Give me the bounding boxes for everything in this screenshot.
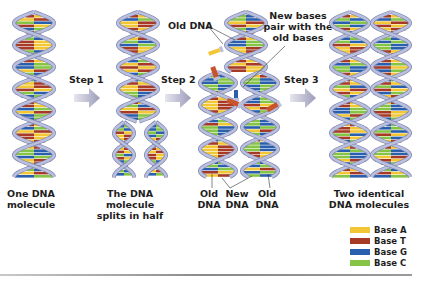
step-3-arrow-icon: [290, 88, 316, 108]
caption-line: The DNA molecule: [82, 188, 178, 210]
step-2-arrow-icon: [165, 88, 191, 108]
legend-label: Base C: [374, 258, 406, 268]
dna-helix-original: [10, 12, 60, 178]
caption-line: One DNA: [4, 188, 58, 199]
caption-line: molecule: [4, 199, 58, 210]
step-3-label: Step 3: [284, 74, 319, 85]
new-bases-annotation: New bases pair with the old bases: [262, 10, 334, 43]
caption-line: splits in half: [82, 210, 178, 221]
legend-label: Base G: [374, 247, 407, 257]
caption-line: DNA: [223, 199, 251, 210]
caption-leader-lines: [200, 172, 280, 192]
legend-item-base-t: Base T: [350, 236, 407, 246]
swatch-base-t: [350, 238, 370, 244]
dna-helix-identical-2: [371, 12, 411, 178]
legend-item-base-a: Base A: [350, 225, 407, 235]
caption-one-dna-molecule: One DNA molecule: [4, 188, 58, 210]
new-bases-line-1: New bases: [262, 10, 334, 21]
step-1-label: Step 1: [69, 74, 104, 85]
old-dna-leader-lines: [205, 22, 245, 62]
swatch-base-a: [350, 227, 370, 233]
new-bases-leader-line: [240, 44, 300, 94]
new-bases-line-3: old bases: [262, 32, 334, 43]
step-1-arrow-icon: [74, 88, 100, 108]
bottom-divider: [0, 274, 412, 276]
new-bases-line-2: pair with the: [262, 21, 334, 32]
caption-line: Two identical: [322, 188, 416, 199]
caption-line: DNA: [253, 199, 281, 210]
caption-two-identical: Two identical DNA molecules: [322, 188, 416, 210]
swatch-base-c: [350, 260, 370, 266]
dna-helix-identical-1: [330, 12, 370, 178]
caption-line: DNA: [195, 199, 223, 210]
legend-label: Base T: [374, 236, 406, 246]
step-2-label: Step 2: [161, 74, 196, 85]
caption-line: DNA molecules: [322, 199, 416, 210]
legend-item-base-g: Base G: [350, 247, 407, 257]
legend-item-base-c: Base C: [350, 258, 407, 268]
legend-label: Base A: [374, 225, 407, 235]
caption-splits-in-half: The DNA molecule splits in half: [82, 188, 178, 221]
dna-helix-splitting: [112, 12, 172, 178]
swatch-base-g: [350, 249, 370, 255]
legend: Base A Base T Base G Base C: [350, 225, 407, 269]
